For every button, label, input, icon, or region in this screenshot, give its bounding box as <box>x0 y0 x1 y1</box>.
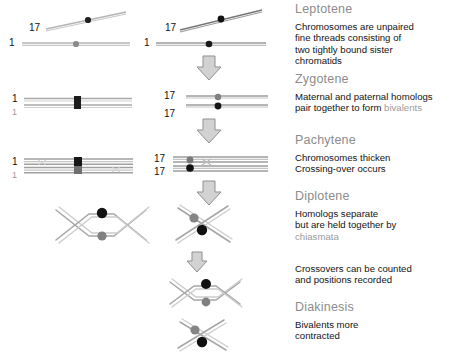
diakinesis-panel-2 <box>158 318 268 360</box>
term-chiasmata: chiasmata <box>295 231 459 242</box>
centromere-17-a <box>187 157 194 164</box>
leptotene-left-chromosomes <box>0 0 140 62</box>
stage-pachytene: Pachytene Chromosomes thicken Crossing-o… <box>295 133 459 175</box>
chromosome-17-label: 17 <box>165 23 176 33</box>
centromere-17-b <box>197 337 207 347</box>
zygotene-right-bivalent <box>140 86 281 148</box>
centromere-17-a <box>215 94 221 100</box>
desc-line: fine threads consisting of <box>295 32 459 43</box>
centromere-pair-b <box>74 166 82 174</box>
pachytene-left-bivalent <box>0 146 140 188</box>
desc-line: Bivalents more <box>295 319 459 330</box>
leptotene-left-panel: 17 1 <box>0 0 140 62</box>
chromosome-1-label: 1 <box>144 38 150 48</box>
stage-title-diakinesis: Diakinesis <box>295 300 459 315</box>
centromere-pair <box>74 96 81 109</box>
desc-line: Maternal and paternal homologs <box>295 91 459 102</box>
leptotene-right-panel: 17 1 <box>140 0 281 82</box>
desc-line: and positions recorded <box>295 274 459 285</box>
desc-line: Crossing-over occurs <box>295 163 459 174</box>
desc-text: pair together to form <box>295 102 384 113</box>
desc-line: Homologs separate <box>295 208 459 219</box>
diplotene-right-panel <box>158 196 268 272</box>
chromosome-17-label: 17 <box>29 23 40 33</box>
centromere-1-a <box>97 208 107 218</box>
stage-desc-diakinesis: Bivalents more contracted <box>295 319 459 342</box>
diplotene-left-panel <box>42 192 162 254</box>
centromere-17 <box>85 17 91 23</box>
stage-desc-zygotene: Maternal and paternal homologs pair toge… <box>295 91 459 114</box>
diagram-area: 17 1 17 1 <box>0 0 281 360</box>
thickened-bivalent-chromosome-17 <box>173 157 268 172</box>
desc-line: contracted <box>295 330 459 341</box>
stage-title-zygotene: Zygotene <box>295 72 459 87</box>
desc-line: Crossovers can be counted <box>295 263 459 274</box>
stage-diakinesis: Diakinesis Bivalents more contracted <box>295 300 459 342</box>
chromosome-17-label-homolog: 17 <box>154 167 165 177</box>
stage-diplotene: Diplotene Homologs separate but are held… <box>295 189 459 242</box>
diakinesis-chromosome-1 <box>158 272 268 318</box>
bivalent-chromosome-17 <box>186 94 268 110</box>
centromere-1-b <box>97 231 106 240</box>
centromere-17-b <box>215 103 222 110</box>
stage-descriptions-column: Leptotene Chromosomes are unpaired fine … <box>281 0 459 360</box>
stage-zygotene: Zygotene Maternal and paternal homologs … <box>295 72 459 114</box>
stage-desc-leptotene: Chromosomes are unpaired fine threads co… <box>295 21 459 67</box>
single-cross-bivalent <box>176 205 232 243</box>
chromosome-1-label: 1 <box>12 94 18 104</box>
pachytene-left-panel: 1 1 <box>0 146 140 188</box>
stage-title-diplotene: Diplotene <box>295 189 459 204</box>
centromere-17-b <box>186 164 194 172</box>
stage-desc-diplotene: Homologs separate but are held together … <box>295 208 459 242</box>
down-arrow-icon <box>197 56 221 80</box>
chromosome-1-label-homolog: 1 <box>12 107 17 117</box>
centromere-17 <box>218 16 225 23</box>
chromosome-1-label: 1 <box>12 157 18 167</box>
zygotene-left-bivalent <box>0 86 140 126</box>
chromosome-17-label: 17 <box>164 91 175 101</box>
chromosome-17-label: 17 <box>154 154 165 164</box>
chromosome-1-thread <box>22 41 130 47</box>
centromere-17-a <box>190 325 199 334</box>
centromere-1-b <box>202 298 211 307</box>
stage-desc-pachytene: Chromosomes thicken Crossing-over occurs <box>295 152 459 175</box>
term-bivalents: bivalents <box>384 102 422 113</box>
centromere-1 <box>73 41 79 47</box>
bivalent-chromosome-1 <box>24 96 132 109</box>
diakinesis-panel-1 <box>158 272 268 318</box>
desc-line: two tightly bound sister <box>295 44 459 55</box>
desc-line: Chromosomes thicken <box>295 152 459 163</box>
stage-leptotene: Leptotene Chromosomes are unpaired fine … <box>295 2 459 67</box>
down-arrow-icon <box>187 252 207 272</box>
zygotene-right-panel: 17 17 <box>140 86 281 148</box>
stage-crossover-note: Crossovers can be counted and positions … <box>295 263 459 286</box>
centromere-pair-a <box>74 157 82 166</box>
desc-line: chromatids <box>295 55 459 66</box>
thickened-bivalent-chromosome-1 <box>24 157 133 174</box>
centromere-1-a <box>201 279 211 289</box>
zygotene-left-panel: 1 1 <box>0 86 140 126</box>
chromosome-17-label-homolog: 17 <box>164 109 175 119</box>
desc-line: pair together to form bivalents <box>295 102 459 113</box>
down-arrow-icon <box>197 119 221 143</box>
stage-title-pachytene: Pachytene <box>295 133 459 148</box>
diakinesis-chromosome-17 <box>158 318 268 360</box>
chromosome-1-thread <box>156 41 266 48</box>
chromosome-1-label: 1 <box>9 38 15 48</box>
stage-title-leptotene: Leptotene <box>295 2 459 17</box>
leptotene-right-chromosomes <box>140 0 281 82</box>
chromosome-17-thread <box>180 10 262 32</box>
chromosome-1-label-homolog: 1 <box>12 170 17 180</box>
diplotene-chromosome-17 <box>158 196 268 272</box>
centromere-17-b <box>197 225 207 235</box>
chromosome-17-thread <box>46 12 126 31</box>
centromere-17-a <box>189 213 198 222</box>
diplotene-chromosome-1 <box>42 192 162 254</box>
desc-line: but are held together by <box>295 219 459 230</box>
desc-line: Chromosomes are unpaired <box>295 21 459 32</box>
stage-desc-crossover: Crossovers can be counted and positions … <box>295 263 459 286</box>
centromere-1 <box>206 41 213 48</box>
